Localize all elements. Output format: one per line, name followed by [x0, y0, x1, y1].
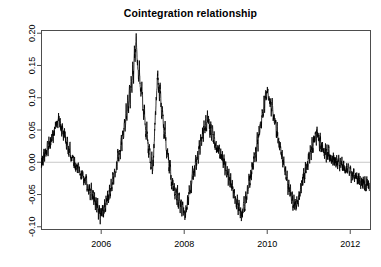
chart-container: Cointegration relationship -0.10-0.050.0… [0, 0, 381, 267]
x-axis-ticks [101, 230, 350, 234]
svg-text:2006: 2006 [91, 239, 111, 249]
svg-text:0.15: 0.15 [27, 57, 37, 75]
svg-text:0.10: 0.10 [27, 89, 37, 107]
series-line-cointegration-residual [41, 33, 369, 224]
svg-text:2008: 2008 [174, 239, 194, 249]
svg-text:0.20: 0.20 [27, 24, 37, 42]
svg-text:2010: 2010 [257, 239, 277, 249]
svg-text:-0.10: -0.10 [27, 217, 37, 238]
y-axis-tick-labels: -0.10-0.050.000.050.100.150.20 [27, 24, 37, 237]
svg-text:2012: 2012 [340, 239, 360, 249]
y-axis-ticks [37, 33, 41, 227]
cointegration-line-chart: -0.10-0.050.000.050.100.150.20 200620082… [0, 0, 381, 267]
svg-text:0.00: 0.00 [27, 153, 37, 171]
svg-text:-0.05: -0.05 [27, 184, 37, 205]
x-axis-tick-labels: 2006200820102012 [91, 239, 360, 249]
plot-box-border [42, 31, 371, 230]
svg-text:0.05: 0.05 [27, 121, 37, 139]
